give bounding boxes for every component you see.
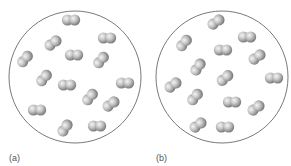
atom [95, 120, 106, 131]
diatomic-molecule [174, 32, 194, 53]
diatomic-molecule [91, 49, 111, 70]
atom [35, 104, 46, 115]
diatomic-molecule [188, 56, 208, 77]
diatomic-molecule [265, 72, 283, 83]
atom [245, 31, 256, 42]
diatomic-molecule [216, 121, 234, 132]
diatomic-molecule [58, 79, 76, 90]
diatomic-molecule [80, 86, 100, 107]
atom [221, 44, 232, 55]
panel-a-label: (a) [9, 153, 20, 163]
molecule-figure [0, 0, 291, 166]
diatomic-molecule [65, 49, 83, 60]
diatomic-molecule [98, 32, 116, 43]
panel-b [156, 11, 288, 143]
diatomic-molecule [246, 47, 267, 67]
diatomic-molecule [223, 96, 241, 107]
atom [69, 14, 80, 25]
diatomic-molecule [214, 44, 232, 55]
diatomic-molecule [245, 98, 266, 118]
panel-a [9, 11, 141, 143]
atom [65, 79, 76, 90]
diatomic-molecule [42, 33, 63, 53]
diatomic-molecule [187, 115, 208, 135]
diatomic-molecule [162, 75, 183, 95]
diatomic-molecule [28, 104, 46, 115]
diatomic-molecule [100, 94, 121, 114]
diatomic-molecule [55, 117, 75, 138]
atom [272, 72, 283, 83]
panel-b-label: (b) [156, 153, 167, 163]
diatomic-molecule [214, 68, 235, 88]
diatomic-molecule [238, 31, 256, 42]
container-circle [9, 11, 141, 143]
diatomic-molecule [88, 120, 106, 131]
diatomic-molecule [62, 14, 80, 25]
diatomic-molecule [15, 48, 35, 69]
atom [123, 77, 134, 88]
diatomic-molecule [205, 12, 226, 32]
diatomic-molecule [116, 77, 134, 88]
atom [72, 49, 83, 60]
atom [223, 121, 234, 132]
diatomic-molecule [34, 67, 54, 88]
atom [105, 32, 116, 43]
diatomic-molecule [185, 86, 205, 107]
atom [230, 96, 241, 107]
